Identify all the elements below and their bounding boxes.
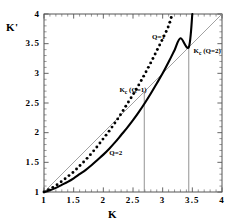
identity-line-series — [44, 14, 222, 192]
curve-label-q2: Q=2 — [109, 149, 122, 157]
kc-q1-label: Kc (Q=1) — [119, 86, 146, 95]
x-tick-label-4: 4 — [202, 195, 235, 205]
x-axis-title: K — [108, 208, 117, 220]
q2-solid-curve — [44, 14, 192, 192]
y-tick-label-1.5: 1.5 — [25, 157, 40, 167]
y-tick-label-2: 2 — [34, 127, 40, 137]
kc-q1-tail: (Q=1) — [127, 86, 146, 94]
q1-dotted-curve — [43, 16, 173, 193]
y-tick-label-2.5: 2.5 — [25, 98, 40, 108]
figure-container: K' K 11.522.533.54 11.522.533.54 Q=1 Q=2… — [0, 0, 235, 224]
y-axis-title: K' — [6, 21, 19, 33]
y-tick-label-3: 3 — [34, 68, 40, 78]
kc-q2-label: Kc (Q=2) — [194, 47, 221, 56]
y-tick-label-3.5: 3.5 — [25, 38, 40, 48]
curve-label-q1: Q=1 — [152, 33, 165, 41]
y-tick-label-4: 4 — [34, 9, 40, 19]
kc-q2-tail: (Q=2) — [201, 47, 220, 55]
